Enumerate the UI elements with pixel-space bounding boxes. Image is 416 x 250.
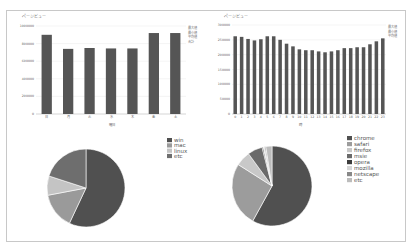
x-tick-label: 木 bbox=[131, 114, 135, 119]
x-tick-label: 11 bbox=[304, 115, 308, 119]
bar[interactable] bbox=[291, 46, 295, 114]
x-tick-label: 17 bbox=[342, 115, 346, 119]
y-tick-label: 50000 bbox=[220, 97, 230, 101]
bar[interactable] bbox=[272, 36, 276, 114]
x-tick-label: 2 bbox=[247, 115, 249, 119]
legend-swatch bbox=[347, 166, 352, 170]
bar[interactable] bbox=[310, 50, 314, 114]
legend-label: etc bbox=[174, 153, 183, 159]
x-axis-label: 曜日 bbox=[109, 123, 115, 127]
x-tick-label: 20 bbox=[362, 115, 366, 119]
bar[interactable] bbox=[323, 52, 327, 114]
y-tick-label: 0 bbox=[32, 112, 34, 116]
legend-swatch bbox=[167, 154, 172, 158]
legend-swatch bbox=[347, 136, 352, 140]
y-tick-label: 600000 bbox=[22, 59, 34, 63]
bar[interactable] bbox=[330, 51, 334, 114]
browser-pie-panel: chromesafarifirefoxmsieoperamozillanetsc… bbox=[210, 130, 406, 240]
x-tick-label: 14 bbox=[323, 115, 327, 119]
x-tick-label: 水 bbox=[110, 114, 114, 119]
x-tick-label: 10 bbox=[297, 115, 301, 119]
bar[interactable] bbox=[84, 48, 94, 114]
chart-title: ページビュー bbox=[22, 13, 46, 19]
bar[interactable] bbox=[240, 37, 244, 114]
bar[interactable] bbox=[349, 48, 353, 114]
x-tick-label: 日 bbox=[45, 115, 48, 119]
x-tick-label: 5 bbox=[266, 115, 268, 119]
legend-swatch bbox=[347, 154, 352, 158]
y-tick-label: 300000 bbox=[218, 23, 230, 27]
bar[interactable] bbox=[233, 36, 237, 114]
bar[interactable] bbox=[127, 48, 137, 114]
y-tick-label: 400000 bbox=[22, 77, 34, 81]
x-tick-label: 22 bbox=[374, 115, 378, 119]
bar[interactable] bbox=[317, 51, 321, 114]
y-tick-label: 100000 bbox=[218, 82, 230, 86]
bar[interactable] bbox=[259, 39, 263, 114]
bar[interactable] bbox=[63, 49, 73, 114]
bar[interactable] bbox=[246, 39, 250, 114]
legend-swatch bbox=[347, 142, 352, 146]
legend-line: 平均値 bbox=[388, 33, 398, 38]
bar[interactable] bbox=[355, 47, 359, 114]
legend-label: etc bbox=[354, 177, 363, 183]
y-tick-label: 250000 bbox=[218, 38, 230, 42]
bar[interactable] bbox=[278, 40, 282, 114]
x-tick-label: 金 bbox=[152, 114, 156, 119]
legend-swatch bbox=[167, 143, 172, 147]
bar[interactable] bbox=[298, 49, 302, 114]
legend-line: 平均値 bbox=[188, 34, 198, 39]
y-tick-label: 200000 bbox=[218, 53, 230, 57]
legend-line: 最大値 bbox=[188, 25, 198, 30]
x-tick-label: 9 bbox=[292, 115, 294, 119]
bar[interactable] bbox=[266, 36, 270, 114]
legend-swatch bbox=[167, 138, 172, 142]
x-tick-label: 月 bbox=[67, 115, 70, 119]
os-pie-chart: winmaclinuxetc bbox=[8, 130, 208, 240]
bar[interactable] bbox=[375, 41, 379, 114]
legend-line: 合計 bbox=[188, 39, 195, 44]
bar[interactable] bbox=[343, 48, 347, 114]
x-tick-label: 4 bbox=[260, 115, 262, 119]
legend-line: 最小値 bbox=[388, 29, 398, 34]
bar[interactable] bbox=[362, 47, 366, 114]
hourly-chart-panel: ページビュー 050000100000150000200000250000300… bbox=[210, 12, 410, 130]
bar[interactable] bbox=[304, 50, 308, 114]
x-tick-label: 8 bbox=[286, 115, 288, 119]
y-tick-label: 200000 bbox=[22, 94, 34, 98]
x-tick-label: 7 bbox=[279, 115, 281, 119]
bar[interactable] bbox=[253, 40, 257, 114]
bar[interactable] bbox=[285, 44, 289, 114]
os-pie-panel: winmaclinuxetc bbox=[8, 130, 208, 240]
hourly-bar-chart: ページビュー 050000100000150000200000250000300… bbox=[210, 12, 410, 130]
x-tick-label: 21 bbox=[368, 115, 372, 119]
x-tick-label: 12 bbox=[310, 115, 314, 119]
bar[interactable] bbox=[42, 35, 52, 114]
legend-swatch bbox=[347, 160, 352, 164]
weekday-bar-chart: ページビュー 02000004000006000008000001000000 … bbox=[8, 12, 208, 130]
y-tick-label: 800000 bbox=[22, 42, 34, 46]
x-tick-label: 15 bbox=[329, 115, 333, 119]
x-axis-label: 時 bbox=[299, 122, 303, 127]
y-tick-label: 0 bbox=[228, 112, 230, 116]
bar[interactable] bbox=[381, 38, 385, 114]
x-tick-label: 火 bbox=[88, 115, 92, 119]
bar[interactable] bbox=[106, 48, 116, 114]
legend-line: 最小値 bbox=[188, 30, 198, 35]
bar[interactable] bbox=[368, 44, 372, 114]
legend-swatch bbox=[167, 149, 172, 153]
legend-swatch bbox=[347, 172, 352, 176]
bar[interactable] bbox=[149, 33, 159, 114]
x-tick-label: 16 bbox=[336, 115, 340, 119]
x-tick-label: 19 bbox=[355, 115, 359, 119]
bar[interactable] bbox=[336, 50, 340, 114]
x-tick-label: 13 bbox=[317, 115, 321, 119]
y-tick-label: 150000 bbox=[218, 68, 230, 72]
legend-swatch bbox=[347, 178, 352, 182]
bar[interactable] bbox=[170, 33, 180, 114]
x-tick-label: 23 bbox=[381, 115, 385, 119]
chart-title: ページビュー bbox=[224, 13, 248, 19]
x-tick-label: 6 bbox=[273, 115, 275, 119]
y-tick-label: 1000000 bbox=[20, 24, 34, 28]
weekday-chart-panel: ページビュー 02000004000006000008000001000000 … bbox=[8, 12, 208, 130]
